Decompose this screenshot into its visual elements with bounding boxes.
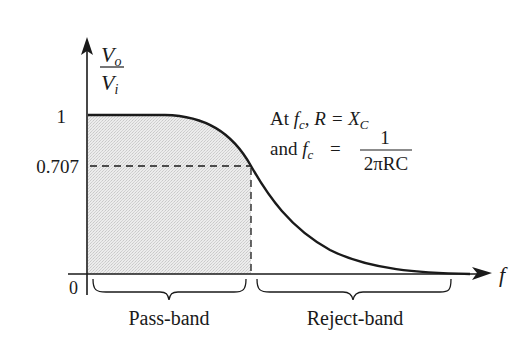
- reject-band-brace: [257, 279, 451, 300]
- pass-band-brace: [93, 279, 246, 300]
- svg-text:Vo: Vo: [101, 42, 121, 69]
- y-axis-label: Vo Vi: [100, 42, 124, 97]
- svg-text:1: 1: [380, 127, 390, 148]
- svg-text:and fc: and fc: [270, 138, 313, 162]
- svg-text:=: =: [330, 138, 341, 159]
- y-tick-0: 0: [69, 278, 78, 298]
- x-axis-label: f: [499, 262, 508, 287]
- svg-text:2πRC: 2πRC: [364, 153, 408, 174]
- filter-response-diagram: Vo Vi 1 0.707 0 f At fc, R = XC and fc =…: [0, 0, 529, 347]
- cutoff-annotation: At fc, R = XC and fc = 1 2πRC: [270, 108, 412, 174]
- y-tick-1: 1: [57, 106, 67, 127]
- y-tick-0707: 0.707: [36, 156, 79, 177]
- svg-text:Vi: Vi: [101, 70, 118, 97]
- pass-band-shading: [88, 115, 251, 274]
- svg-text:At fc, R = XC: At fc, R = XC: [270, 108, 369, 132]
- reject-band-label: Reject-band: [307, 307, 404, 330]
- pass-band-label: Pass-band: [128, 307, 209, 329]
